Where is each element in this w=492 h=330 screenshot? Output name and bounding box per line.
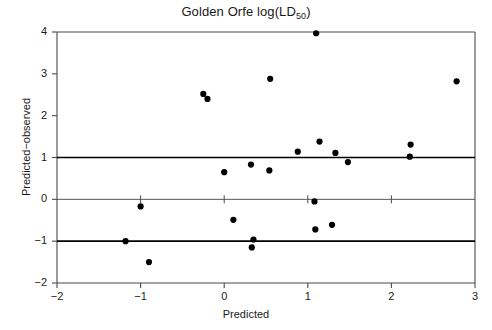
data-point xyxy=(266,167,272,173)
data-point xyxy=(200,91,206,97)
data-point xyxy=(454,78,460,84)
y-tick-label: −2 xyxy=(25,276,47,288)
data-point xyxy=(221,169,227,175)
x-tick-label: −1 xyxy=(126,290,156,302)
data-point xyxy=(250,236,256,242)
data-point xyxy=(312,226,318,232)
data-point-series xyxy=(122,30,459,265)
data-point xyxy=(311,198,317,204)
data-point xyxy=(408,141,414,147)
y-tick-label: −1 xyxy=(25,234,47,246)
data-point xyxy=(267,76,273,82)
data-point xyxy=(122,238,128,244)
x-tick-label: 3 xyxy=(460,290,490,302)
data-point xyxy=(295,149,301,155)
data-point xyxy=(329,222,335,228)
data-point xyxy=(249,244,255,250)
data-point xyxy=(313,30,319,36)
tick-marks xyxy=(52,32,475,288)
x-tick-label: 0 xyxy=(209,290,239,302)
data-point xyxy=(204,96,210,102)
data-point xyxy=(345,159,351,165)
scatter-plot-figure: Golden Orfe log(LD50) −2−101234−2−10123 … xyxy=(0,0,492,330)
data-point xyxy=(146,259,152,265)
data-point xyxy=(138,203,144,209)
reference-lines xyxy=(57,158,475,242)
x-axis-label: Predicted xyxy=(0,308,492,320)
y-axis-label: Predicted−observed xyxy=(20,67,32,227)
y-tick-label: 4 xyxy=(25,25,47,37)
data-point xyxy=(407,154,413,160)
data-point xyxy=(332,150,338,156)
data-point xyxy=(248,162,254,168)
data-point xyxy=(230,217,236,223)
data-point xyxy=(316,139,322,145)
x-tick-label: 1 xyxy=(293,290,323,302)
plot-canvas xyxy=(0,0,492,330)
x-tick-label: 2 xyxy=(376,290,406,302)
x-tick-label: −2 xyxy=(42,290,72,302)
